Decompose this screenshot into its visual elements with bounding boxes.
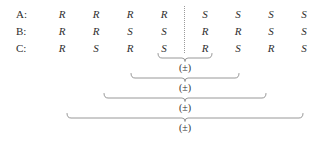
brace-label-3: (±)	[179, 102, 191, 113]
brace-pair-1	[157, 53, 213, 62]
config-cell: R	[55, 25, 69, 37]
config-cell: S	[123, 25, 137, 37]
brace-label-2: (±)	[179, 82, 191, 93]
brace-label-4: (±)	[179, 122, 191, 133]
config-cell: R	[231, 25, 245, 37]
brace-pair-2	[130, 73, 240, 82]
stereochemistry-figure: A: B: C: R R R R S S S S R R S S R R S S…	[0, 0, 331, 144]
config-cell: R	[55, 42, 69, 54]
brace-pair-4	[66, 113, 304, 122]
config-cell: S	[89, 42, 103, 54]
brace-label-1: (±)	[179, 62, 191, 73]
config-cell: S	[231, 42, 245, 54]
config-cell: S	[297, 42, 311, 54]
underbrace-icon	[157, 53, 213, 62]
mirror-divider	[184, 6, 185, 53]
underbrace-icon	[130, 73, 240, 82]
underbrace-icon	[66, 113, 304, 122]
config-cell: S	[264, 8, 278, 20]
config-cell: R	[264, 42, 278, 54]
config-cell: R	[198, 25, 212, 37]
config-cell: S	[231, 8, 245, 20]
config-cell: R	[89, 8, 103, 20]
row-label-b: B:	[16, 25, 26, 37]
config-cell: R	[89, 25, 103, 37]
brace-pair-3	[103, 93, 267, 102]
config-cell: S	[157, 25, 171, 37]
config-cell: S	[198, 8, 212, 20]
underbrace-icon	[103, 93, 267, 102]
config-cell: S	[264, 25, 278, 37]
config-cell: S	[297, 8, 311, 20]
config-cell: R	[123, 8, 137, 20]
config-cell: R	[55, 8, 69, 20]
config-cell: S	[297, 25, 311, 37]
config-cell: R	[157, 8, 171, 20]
config-cell: R	[123, 42, 137, 54]
row-label-c: C:	[16, 42, 26, 54]
row-label-a: A:	[16, 8, 27, 20]
